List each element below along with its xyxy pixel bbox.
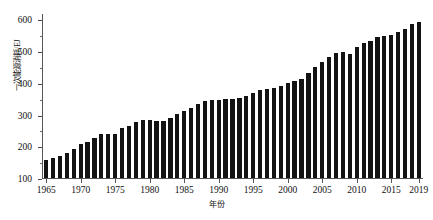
bar [134,122,138,178]
bar [244,96,248,178]
y-axis-tick: 400 [38,84,42,85]
x-axis-tick-label: 1985 [175,185,194,195]
bar [417,22,421,178]
bar [348,54,352,178]
bar [327,57,331,178]
bar [189,108,193,178]
bar [396,32,400,178]
bar [161,121,165,178]
y-axis-tick: 200 [38,147,42,148]
x-axis-tick-label: 1965 [37,185,56,195]
bar [141,120,145,178]
bar [182,111,186,178]
bar [313,67,317,178]
x-axis-tick [288,179,289,183]
y-axis-minor-tick [40,163,43,164]
bar [210,100,214,178]
x-axis-tick [184,179,185,183]
bar [58,156,62,178]
bar [368,41,372,178]
chart-figure: 一次能源消耗/EJ 100200300400500600 19651970197… [0,0,433,220]
bar [106,134,110,178]
y-axis-tick-label: 200 [18,142,32,152]
bar [120,128,124,178]
bar [175,114,179,178]
bar [168,118,172,178]
x-axis-tick-label: 1990 [209,185,228,195]
bar [375,37,379,178]
bar [272,88,276,178]
x-axis-tick-label: 1995 [244,185,263,195]
y-axis-tick: 100 [38,179,42,180]
bar [251,93,255,178]
bar [382,36,386,178]
bar [51,158,55,178]
x-axis-tick-label: 2010 [347,185,366,195]
y-axis-spine [42,14,43,179]
bar [299,79,303,178]
x-axis-tick-label: 1975 [106,185,125,195]
y-axis-tick-label: 300 [18,111,32,121]
bar [72,149,76,178]
x-axis-tick [322,179,323,183]
x-axis-tick-label: 2000 [278,185,297,195]
x-axis-spine [42,178,423,179]
bar [148,120,152,178]
bar [389,35,393,178]
x-axis-tick [357,179,358,183]
bar [355,47,359,178]
y-axis-title: 一次能源消耗/EJ [11,15,23,115]
x-axis-tick [115,179,116,183]
bar [320,62,324,178]
y-axis-minor-tick [40,68,43,69]
x-axis-title: 年份 [0,198,433,209]
bar [154,121,158,178]
x-axis-tick-label: 1970 [71,185,90,195]
bar [286,83,290,179]
x-axis-tick-label: 2015 [382,185,401,195]
x-axis-tick-label: 2019 [409,185,428,195]
y-axis-tick-label: 500 [18,47,32,57]
x-axis-tick [391,179,392,183]
x-axis-tick [253,179,254,183]
bar [258,90,262,178]
bar [217,100,221,178]
y-axis-tick-label: 100 [18,174,32,184]
bar [99,134,103,178]
x-axis-tick [219,179,220,183]
bar [85,142,89,178]
y-axis-tick: 600 [38,20,42,21]
bar [203,101,207,178]
bar [292,81,296,178]
bar [79,144,83,178]
x-axis-tick-label: 2005 [313,185,332,195]
x-axis-tick [46,179,47,183]
bar [65,153,69,178]
y-axis-tick: 500 [38,52,42,53]
bar [403,29,407,178]
y-axis-minor-tick [40,131,43,132]
bar [196,104,200,178]
y-axis-tick-label: 400 [18,79,32,89]
x-axis-tick [150,179,151,183]
bar [223,99,227,178]
x-axis-tick [81,179,82,183]
bar [279,86,283,178]
bar [44,160,48,178]
bar [230,99,234,178]
bar [306,73,310,178]
y-axis-tick: 300 [38,116,42,117]
y-axis-minor-tick [40,100,43,101]
bar [341,52,345,178]
y-axis-tick-label: 600 [18,15,32,25]
bar [334,53,338,178]
x-axis-tick [419,179,420,183]
bar [410,24,414,178]
y-axis-minor-tick [40,36,43,37]
bar [265,89,269,178]
x-axis-tick-label: 1980 [140,185,159,195]
plot-area: 100200300400500600 196519701975198019851… [42,14,423,179]
bar [237,98,241,178]
bar [127,126,131,178]
bar [113,134,117,178]
